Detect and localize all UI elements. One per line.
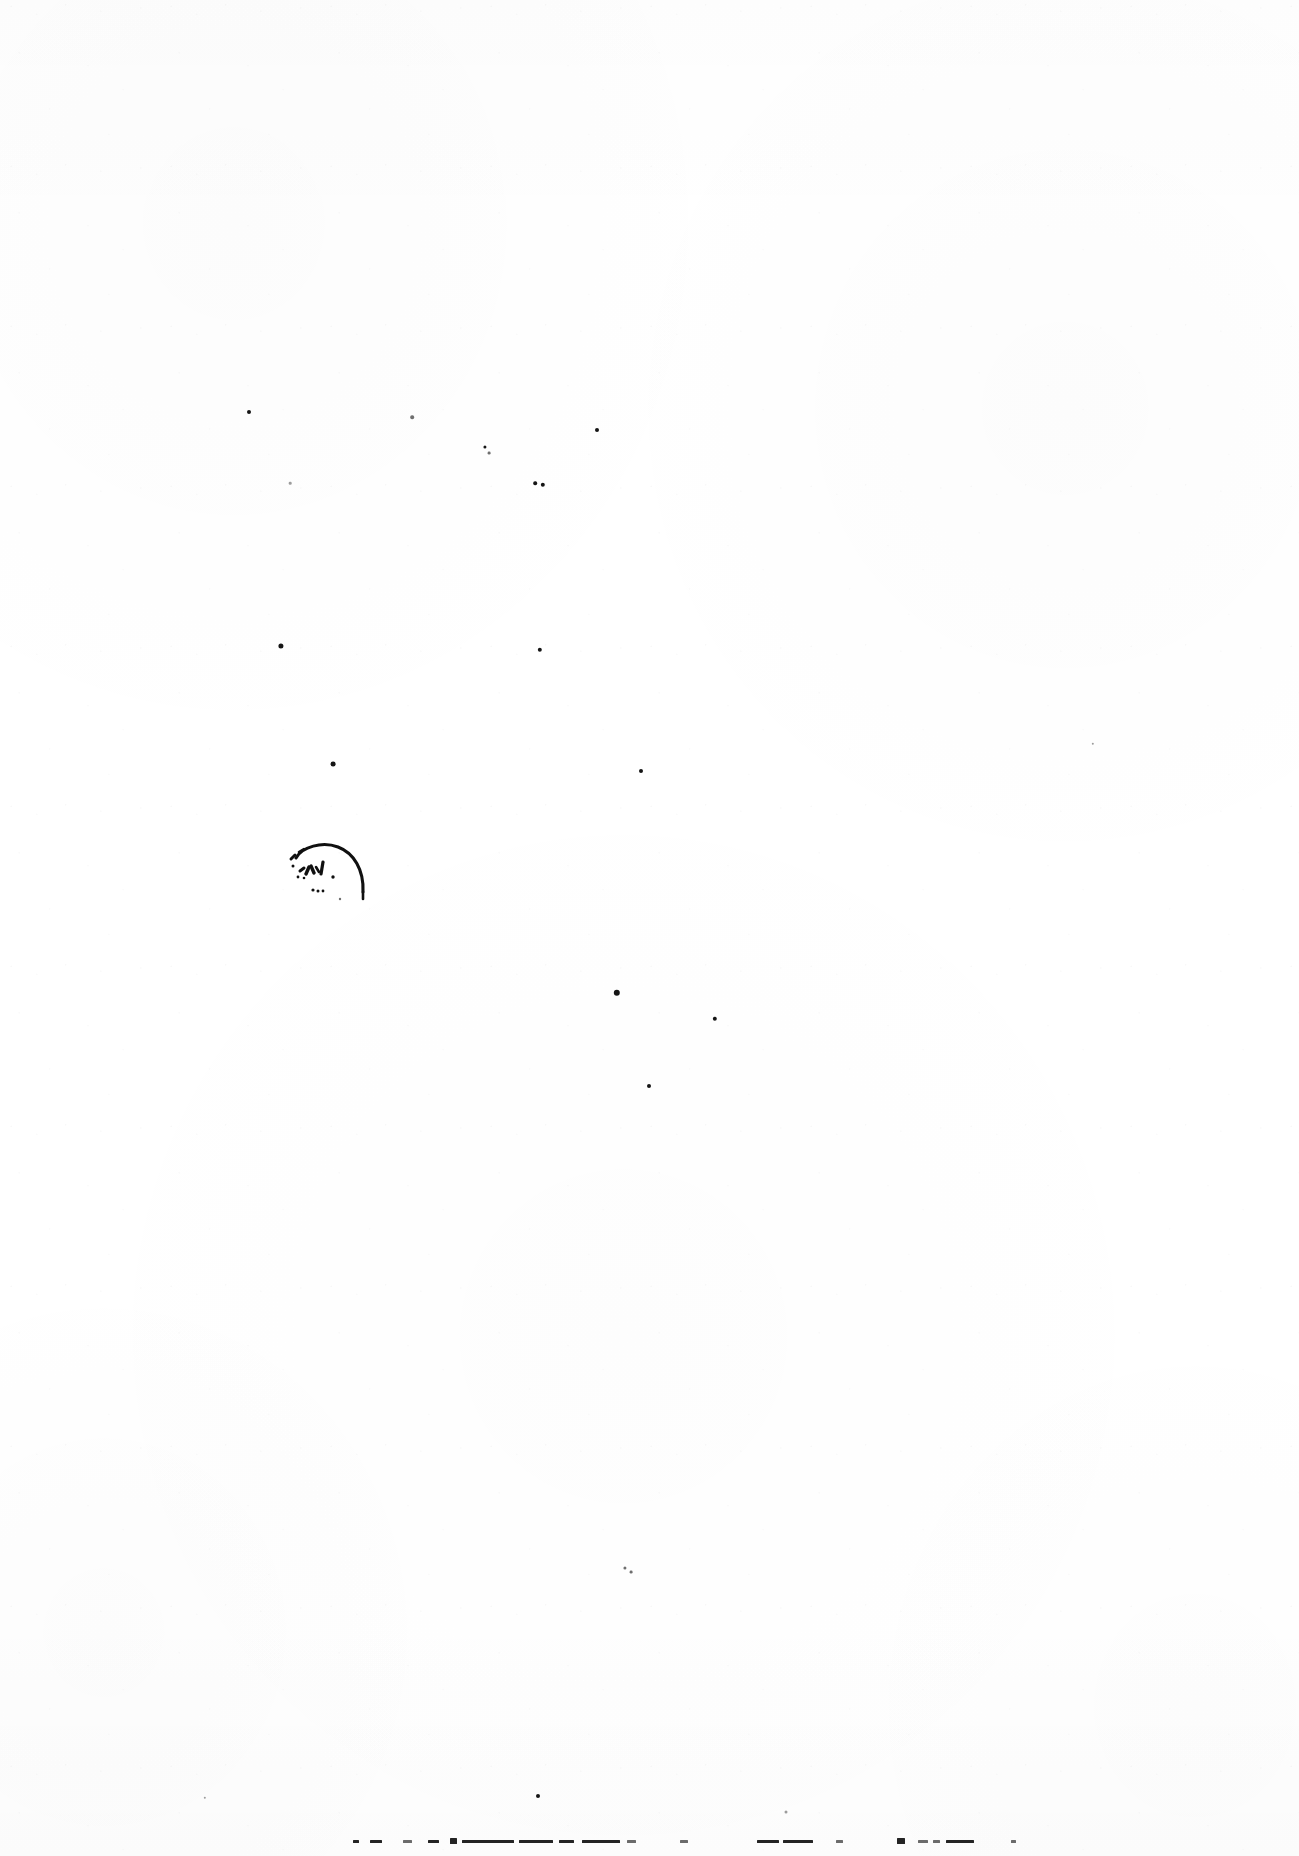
text-fragment	[582, 1840, 620, 1843]
text-fragment	[462, 1840, 514, 1843]
ink-speck	[483, 445, 486, 448]
text-fragment	[353, 1840, 359, 1843]
scanned-page	[0, 0, 1299, 1856]
ink-speck	[595, 428, 599, 432]
ink-speck	[614, 990, 620, 996]
ink-speck	[713, 1017, 717, 1021]
ink-speck	[410, 415, 414, 419]
ink-speck	[647, 1084, 651, 1088]
paper-speckle-overlay	[0, 0, 1299, 1856]
stamp-remnant-icon	[278, 836, 378, 908]
text-fragment	[450, 1838, 457, 1844]
text-fragment	[428, 1840, 439, 1843]
ink-speck	[289, 482, 292, 485]
bottom-edge-fragments	[0, 1838, 1299, 1856]
ink-speck	[785, 1811, 788, 1814]
ink-speck	[331, 762, 336, 767]
text-fragment	[757, 1840, 779, 1843]
ink-speck	[278, 643, 283, 648]
text-fragment	[1011, 1840, 1016, 1843]
ink-speck	[639, 769, 643, 773]
ink-speck	[538, 648, 542, 652]
text-fragment	[559, 1840, 574, 1843]
text-fragment	[370, 1840, 382, 1843]
ink-speck	[533, 481, 537, 485]
text-fragment	[519, 1840, 553, 1843]
ink-speck	[247, 410, 251, 414]
text-fragment	[836, 1840, 843, 1843]
ink-speck	[488, 452, 491, 455]
text-fragment	[783, 1840, 813, 1843]
ink-speck	[630, 1571, 633, 1574]
ink-speck	[1092, 743, 1094, 745]
text-fragment	[918, 1840, 928, 1843]
ink-speck	[541, 483, 545, 487]
ink-speck	[623, 1566, 626, 1569]
text-fragment	[403, 1840, 412, 1843]
ink-speck	[536, 1794, 540, 1798]
text-fragment	[680, 1840, 688, 1843]
ink-speck	[204, 1797, 206, 1799]
text-fragment	[946, 1840, 974, 1843]
text-fragment	[627, 1840, 636, 1843]
paper-grain-overlay	[0, 0, 1299, 1856]
text-fragment	[933, 1840, 940, 1843]
text-fragment	[897, 1838, 905, 1844]
